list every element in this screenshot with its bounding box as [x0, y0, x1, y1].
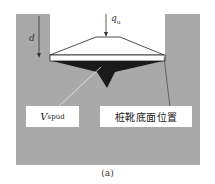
spudcan-top-cone [50, 37, 164, 55]
load-arrow-icon [104, 14, 108, 37]
figure-caption: (a) [0, 168, 215, 178]
volume-label-box: Vspud [26, 106, 79, 127]
spudcan-plate [50, 55, 165, 61]
position-label-box: 桩靴底面位置 [100, 106, 192, 127]
depth-label: d [29, 33, 35, 43]
spudcan-diagram [0, 0, 215, 184]
load-label: qu [111, 13, 121, 25]
